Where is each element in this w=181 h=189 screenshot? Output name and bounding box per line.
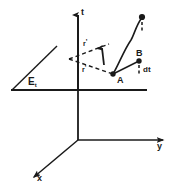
plane-label-e-t: Et bbox=[28, 77, 37, 87]
r-lower-prime: ' bbox=[85, 64, 87, 71]
plane-label-subscript: t bbox=[35, 82, 37, 88]
worldline-curve bbox=[113, 19, 141, 74]
point-b-label: B bbox=[136, 49, 143, 58]
point-a-marker bbox=[110, 71, 115, 76]
displacement-arrow bbox=[102, 48, 104, 65]
point-b-marker bbox=[136, 58, 141, 63]
dt-label: dt bbox=[143, 66, 151, 74]
upper-event-marker bbox=[139, 14, 145, 20]
t-axis-label: t bbox=[81, 8, 84, 17]
x-axis-label: x bbox=[37, 174, 42, 183]
r-upper-prime: ' bbox=[86, 38, 88, 45]
r-lower-dashed-vector bbox=[69, 59, 113, 74]
r-lower-label: r' bbox=[82, 66, 86, 73]
spacetime-diagram: t y x Et A B dt r' r' bbox=[0, 0, 181, 189]
x-axis-line bbox=[34, 140, 78, 177]
point-a-label: A bbox=[117, 76, 124, 85]
y-axis-label: y bbox=[157, 142, 162, 151]
plane-label-main: E bbox=[28, 76, 35, 87]
diagram-canvas bbox=[0, 0, 181, 189]
r-upper-label: r' bbox=[83, 40, 87, 47]
